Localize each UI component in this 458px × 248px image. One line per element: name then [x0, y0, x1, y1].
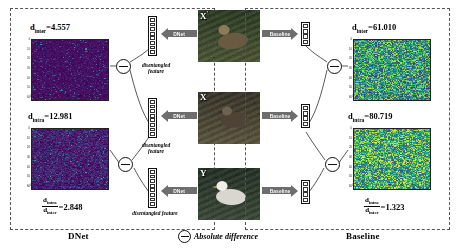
- legend-label: Absolute difference: [194, 232, 258, 241]
- feature-vector-dnet-top: [148, 16, 157, 56]
- base-inter-heatmap: 0102030405060 0102030405060: [344, 30, 432, 102]
- circled-minus-icon: [178, 230, 191, 243]
- metric-base-ratio: dintra dinter =1.323: [364, 197, 405, 216]
- ratio-fraction: dintra dinter: [364, 197, 380, 216]
- heatmap-plot-area: [31, 39, 109, 101]
- heatmap-plot-area: [353, 128, 431, 190]
- absolute-difference-operator-base-top: [327, 59, 342, 74]
- dnet-inter-heatmap: 0102030405060 0102030405060: [22, 30, 110, 102]
- arrow-dnet-top: DNet: [161, 29, 197, 38]
- denominator-subscript: inter: [47, 210, 56, 215]
- heatmap-plot-area: [353, 39, 431, 101]
- absolute-difference-operator-base-bottom: [325, 157, 340, 172]
- x-axis-ticks: 0102030405060: [31, 95, 119, 103]
- legend: Absolute difference: [178, 230, 258, 243]
- y-axis-ticks: 0102030405060: [344, 39, 353, 111]
- arrow-dnet-bot: DNet: [161, 186, 197, 195]
- base-intra-heatmap: 0102030405060 0102030405060: [344, 119, 432, 191]
- dnet-intra-heatmap: 0102030405060 0102030405060: [22, 119, 110, 191]
- image-tag-mid: X: [200, 92, 207, 102]
- x-axis-ticks: 0102030405060: [31, 184, 119, 192]
- ratio-denominator: dinter: [364, 207, 379, 216]
- arrow-head-icon: [161, 185, 168, 197]
- y-axis-ticks: 0102030405060: [344, 128, 353, 200]
- numerator-subscript: intra: [47, 200, 57, 205]
- numerator-subscript: intra: [369, 200, 379, 205]
- x-axis-ticks: 0102030405060: [353, 184, 441, 192]
- ratio-value: 1.323: [385, 202, 404, 212]
- disentangled-feature-label-mid: disentangled feature: [128, 142, 184, 154]
- x-axis-ticks: 0102030405060: [353, 95, 441, 103]
- y-axis-ticks: 0102030405060: [22, 128, 31, 200]
- arrow-head-icon: [161, 28, 168, 40]
- arrow-dnet-mid: DNet: [161, 111, 197, 120]
- absolute-difference-operator-dnet-bottom: [118, 157, 133, 172]
- image-tag-bot: Y: [200, 168, 207, 178]
- metric-dnet-ratio: dintra dinter =2.848: [42, 197, 83, 216]
- arrow-label: DNet: [173, 113, 185, 119]
- denominator-subscript: inter: [369, 210, 378, 215]
- heatmap-plot-area: [31, 128, 109, 190]
- y-axis-ticks: 0102030405060: [22, 39, 31, 111]
- baseline-caption: Baseline: [346, 231, 380, 241]
- arrow-head-icon: [161, 110, 168, 122]
- figure-root: dinter=4.557 0102030405060 0102030405060…: [0, 0, 458, 248]
- feature-vector-dnet-mid: [148, 98, 157, 138]
- image-tag-top: X': [200, 10, 208, 21]
- dnet-caption: DNet: [68, 231, 89, 241]
- arrow-label: DNet: [173, 188, 185, 194]
- feature-vector-dnet-bot: [148, 168, 157, 208]
- arrow-label: DNet: [173, 31, 185, 37]
- disentangled-feature-label-top: disentangled feature: [128, 62, 184, 74]
- ratio-value: 2.848: [63, 202, 82, 212]
- ratio-denominator: dinter: [42, 207, 57, 216]
- disentangled-feature-label-bot: disentangled feature: [120, 210, 190, 216]
- ratio-fraction: dintra dinter: [42, 197, 58, 216]
